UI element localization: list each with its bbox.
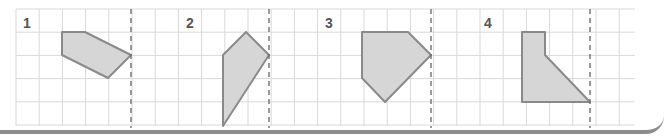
shape-1 [62, 32, 131, 78]
panel-label-2: 2 [186, 15, 194, 31]
panel-label-1: 1 [23, 15, 31, 31]
shape-3 [362, 32, 431, 102]
panel-label-3: 3 [325, 15, 333, 31]
shape-4 [522, 32, 590, 102]
panel-label-4: 4 [484, 15, 492, 31]
